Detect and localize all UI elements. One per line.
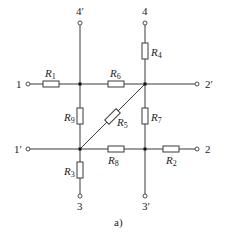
label-r1: R1 bbox=[44, 67, 56, 81]
terminal-2-prime bbox=[195, 82, 199, 86]
resistor-r8 bbox=[108, 146, 124, 152]
resistor-r6 bbox=[108, 81, 124, 87]
label-terminal-2: 2 bbox=[205, 143, 211, 155]
terminal-1 bbox=[26, 82, 30, 86]
circuit-diagram: 4′ 4 1 2′ 1′ 2 3 3′ R1 R6 R4 R9 R5 R7 R8… bbox=[0, 0, 251, 235]
resistor-r2 bbox=[163, 146, 179, 152]
node-a bbox=[79, 83, 82, 86]
resistor-r1 bbox=[43, 81, 59, 87]
label-terminal-4: 4 bbox=[142, 5, 148, 17]
node-c bbox=[79, 148, 82, 151]
label-r9: R9 bbox=[63, 111, 75, 125]
label-terminal-1: 1 bbox=[16, 78, 22, 90]
node-d bbox=[144, 148, 147, 151]
label-terminal-4-prime: 4′ bbox=[76, 5, 84, 17]
label-terminal-3: 3 bbox=[77, 200, 83, 212]
resistor-r7 bbox=[142, 108, 148, 124]
node-b bbox=[144, 83, 147, 86]
label-r5: R5 bbox=[116, 116, 128, 130]
resistor-r4 bbox=[142, 43, 148, 59]
label-r3: R3 bbox=[63, 165, 75, 179]
label-r6: R6 bbox=[109, 67, 121, 81]
label-terminal-2-prime: 2′ bbox=[205, 78, 213, 90]
label-terminal-1-prime: 1′ bbox=[14, 143, 22, 155]
figure-caption: a) bbox=[114, 216, 123, 229]
label-r2: R2 bbox=[165, 154, 177, 168]
terminal-1-prime bbox=[26, 147, 30, 151]
terminal-3 bbox=[78, 194, 82, 198]
resistor-r9 bbox=[77, 108, 83, 124]
terminal-2 bbox=[195, 147, 199, 151]
label-r7: R7 bbox=[150, 111, 162, 125]
label-r4: R4 bbox=[150, 46, 162, 60]
terminal-4-prime bbox=[78, 21, 82, 25]
terminal-4 bbox=[143, 21, 147, 25]
resistor-r3 bbox=[77, 162, 83, 178]
label-r8: R8 bbox=[107, 154, 119, 168]
label-terminal-3-prime: 3′ bbox=[142, 200, 150, 212]
terminal-3-prime bbox=[143, 194, 147, 198]
